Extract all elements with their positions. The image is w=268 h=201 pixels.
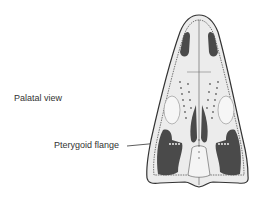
- palatal-vacuity-right: [218, 96, 234, 124]
- skull-illustration: [0, 0, 268, 201]
- palatal-vacuity-left: [164, 96, 180, 124]
